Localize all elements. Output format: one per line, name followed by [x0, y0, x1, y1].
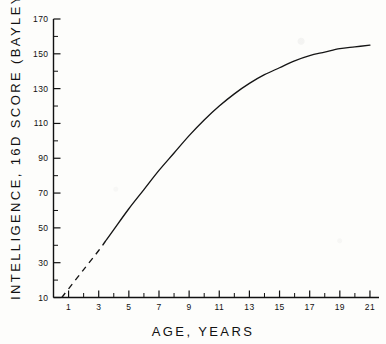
x-tick-label: 21 — [365, 302, 375, 312]
y-tick-label: 130 — [33, 84, 48, 94]
y-axis-title: INTELLIGENCE, 16D SCORE (BAYLEY) — [8, 0, 23, 300]
x-axis-title: AGE, YEARS — [152, 324, 255, 339]
x-tick-label: 17 — [305, 302, 315, 312]
x-tick-label: 15 — [274, 302, 284, 312]
y-tick-label: 110 — [34, 118, 49, 128]
series-line-observed — [106, 45, 370, 240]
x-tick-label: 9 — [187, 302, 192, 312]
x-tick-label: 13 — [244, 302, 254, 312]
x-tick-label: 11 — [214, 302, 224, 312]
y-tick-label: 150 — [33, 49, 48, 59]
chart-svg: INTELLIGENCE, 16D SCORE (BAYLEY) AGE, YE… — [0, 0, 386, 344]
x-tick-label: 7 — [156, 302, 161, 312]
x-tick-label: 5 — [126, 302, 131, 312]
y-axis-ticks: 1030507090110130150170 — [33, 14, 60, 303]
y-tick-label: 30 — [38, 258, 48, 268]
y-tick-label: 170 — [33, 14, 48, 24]
x-tick-label: 1 — [66, 302, 71, 312]
x-axis-ticks: 13579111315171921 — [66, 291, 375, 312]
figure-panel: INTELLIGENCE, 16D SCORE (BAYLEY) AGE, YE… — [0, 0, 386, 344]
y-tick-label: 70 — [38, 188, 48, 198]
x-tick-label: 19 — [335, 302, 345, 312]
y-tick-label: 90 — [38, 153, 48, 163]
y-tick-label: 10 — [38, 293, 48, 303]
x-tick-label: 3 — [96, 302, 101, 312]
series-line-extrapolated — [62, 240, 106, 297]
y-tick-label: 50 — [38, 223, 48, 233]
